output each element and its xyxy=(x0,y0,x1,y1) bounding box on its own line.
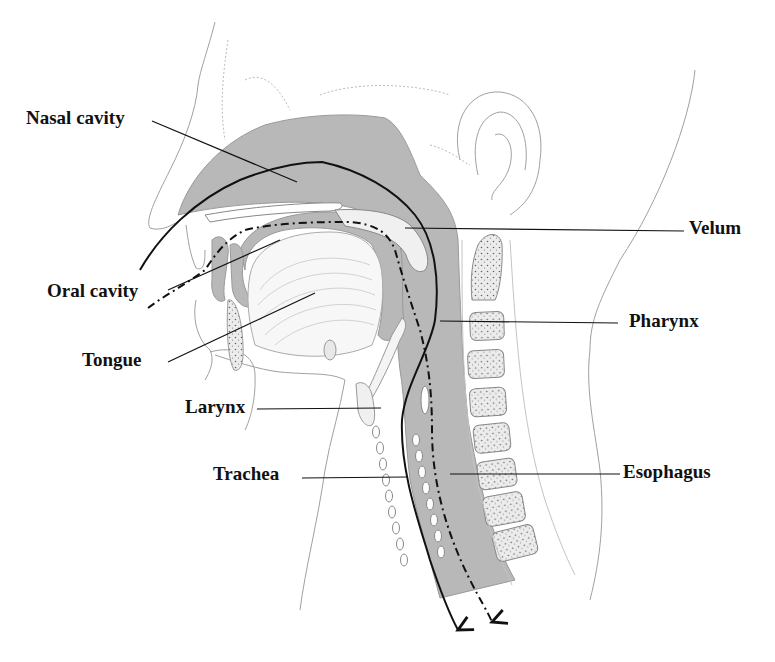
label-nasal-cavity: Nasal cavity xyxy=(26,108,125,127)
label-trachea: Trachea xyxy=(213,464,279,483)
anatomy-diagram: Nasal cavity Oral cavity Tongue Larynx T… xyxy=(0,0,775,662)
label-larynx: Larynx xyxy=(185,397,245,416)
vocal-tract-illustration xyxy=(0,0,775,662)
label-pharynx: Pharynx xyxy=(629,311,699,330)
label-tongue: Tongue xyxy=(82,350,142,369)
leader-trachea xyxy=(302,477,407,478)
label-velum: Velum xyxy=(689,218,741,237)
leader-pharynx xyxy=(440,321,618,323)
label-oral-cavity: Oral cavity xyxy=(47,281,138,300)
hyoid-bone xyxy=(324,340,336,360)
tongue-body xyxy=(248,232,383,356)
label-esophagus: Esophagus xyxy=(623,462,711,481)
tissue-fill xyxy=(178,115,515,598)
